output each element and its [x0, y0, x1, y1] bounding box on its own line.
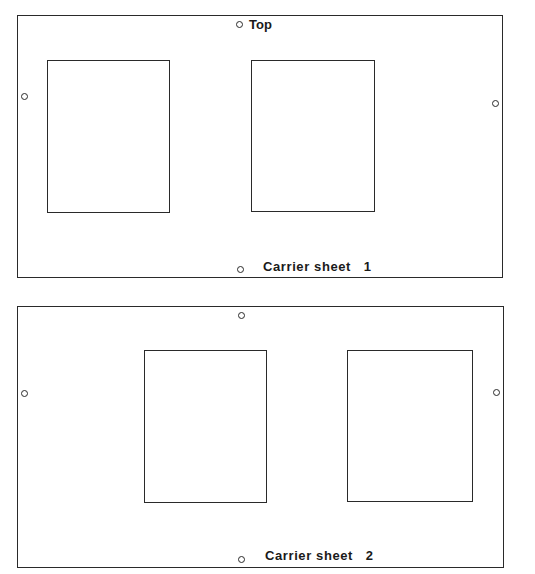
sheet-1-window-right [251, 60, 375, 212]
sheet-1-label: Carrier sheet 1 [263, 260, 371, 273]
sheet-1-hole-bottom-icon [237, 266, 244, 273]
sheet-2-label: Carrier sheet 2 [265, 549, 373, 562]
sheet-1-hole-left-icon [21, 93, 28, 100]
top-label: Top [249, 18, 272, 31]
sheet-1-hole-top-icon [236, 21, 243, 28]
sheet-2-hole-right-icon [493, 389, 500, 396]
sheet-2-window-right [347, 350, 473, 502]
sheet-1-hole-right-icon [492, 100, 499, 107]
sheet-2-hole-top-icon [238, 312, 245, 319]
sheet-2-hole-bottom-icon [238, 556, 245, 563]
sheet-1-window-left [47, 60, 170, 213]
sheet-2-hole-left-icon [21, 390, 28, 397]
sheet-2-window-left [144, 350, 267, 503]
